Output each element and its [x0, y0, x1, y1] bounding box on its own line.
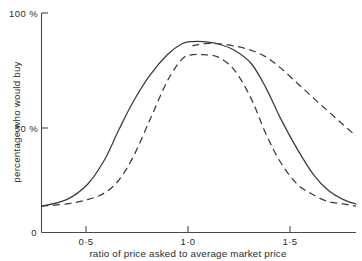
- y-tick-label-0: 0: [31, 227, 37, 238]
- x-tick-label-0-5: 0·5: [79, 236, 94, 247]
- chart-figure: 100 % 50 % 0 0·5 1·0 1·5 ratio of price …: [0, 0, 362, 261]
- chart-background: [0, 0, 362, 261]
- x-axis-title: ratio of price asked to average market p…: [89, 248, 287, 259]
- y-tick-label-100: 100 %: [9, 8, 38, 19]
- x-tick-label-1-5: 1·5: [283, 236, 298, 247]
- y-axis-title: percentage who would buy: [11, 61, 22, 182]
- x-tick-label-1-0: 1·0: [181, 236, 196, 247]
